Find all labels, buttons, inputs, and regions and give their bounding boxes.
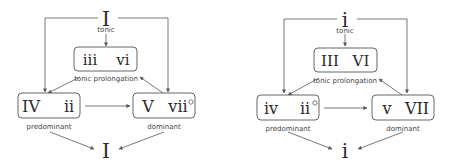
prolongation-right-numeral: vi — [115, 51, 129, 69]
dominant-to-tonic-arrow — [358, 132, 403, 149]
prolongation-label: tonic prolongation — [74, 75, 138, 83]
dominant-right-numeral: VII — [404, 99, 429, 118]
predominant-left-numeral: IV — [22, 97, 40, 116]
tonic-bottom-numeral: i — [342, 139, 348, 163]
prolongation-left-numeral: III — [321, 52, 339, 70]
predominant-right-numeral: ii — [300, 99, 310, 118]
dominant-to-prolongation-arrow — [140, 77, 163, 93]
dominant-to-tonic-arrow — [119, 132, 164, 149]
minor-harmony-diagram: i tonic III VI tonic prolongation iv ii … — [226, 0, 452, 164]
major-diagram-graphic: I tonic iii vi tonic prolongation IV ii … — [0, 0, 226, 164]
dominant-left-numeral: V — [141, 97, 154, 116]
predominant-left-numeral: iv — [264, 99, 278, 118]
dominant-right-numeral: vii — [167, 97, 187, 116]
prolongation-left-numeral: iii — [83, 51, 98, 69]
dominant-label: dominant — [386, 125, 420, 133]
prolongation-right-numeral: VI — [352, 52, 370, 70]
tonic-label: tonic — [97, 26, 114, 34]
predominant-label: predominant — [266, 125, 311, 133]
dominant-to-prolongation-arrow — [379, 79, 402, 95]
predominant-to-tonic-arrow — [50, 132, 94, 149]
tonic-label: tonic — [336, 27, 353, 35]
predominant-to-tonic-arrow — [288, 132, 332, 149]
dominant-label: dominant — [147, 123, 181, 131]
predominant-label: predominant — [27, 123, 72, 131]
major-harmony-diagram: I tonic iii vi tonic prolongation IV ii … — [0, 0, 226, 164]
minor-diagram-graphic: i tonic III VI tonic prolongation iv ii … — [226, 0, 452, 164]
predominant-right-numeral: ii — [64, 97, 74, 116]
prolongation-label: tonic prolongation — [313, 77, 377, 85]
dominant-left-numeral: v — [381, 99, 391, 118]
tonic-bottom-numeral: I — [102, 139, 110, 163]
